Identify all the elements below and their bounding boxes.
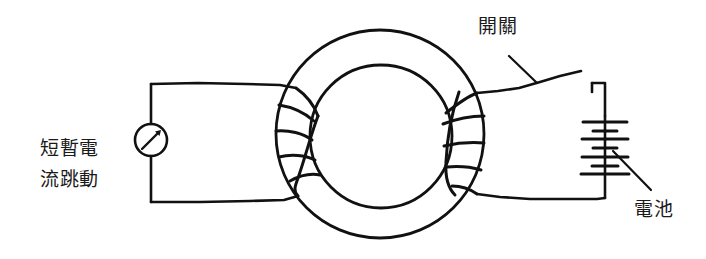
core-inner-circle: [310, 65, 452, 208]
secondary-coil-windings: [276, 88, 320, 196]
battery-leader-line: [613, 151, 651, 190]
battery-label: 電池: [634, 198, 673, 220]
secondary-circuit: [135, 83, 298, 202]
secondary-bottom-wire: [151, 196, 298, 202]
coil-turn-left-5: [290, 174, 320, 181]
primary-bottom-wire: [477, 194, 605, 199]
secondary-top-wire: [151, 83, 296, 88]
diagram-canvas: 短暫電 流跳動 開關 電池: [0, 0, 706, 259]
primary-circuit: [477, 71, 629, 199]
coil-turn-right-3: [444, 143, 484, 146]
switch-contact-wire: [592, 83, 605, 116]
coil-turn-right-4: [447, 167, 481, 170]
iron-ring-core: [276, 30, 484, 238]
coil-turn-right-1: [446, 93, 477, 113]
left-annotation-line2: 流跳動: [40, 168, 99, 190]
switch-leader-line: [509, 56, 537, 83]
coil-turn-left-3: [276, 131, 312, 140]
induction-ring-figure: 短暫電 流跳動 開關 電池: [0, 0, 706, 259]
coil-turn-left-2: [279, 105, 314, 121]
galvanometer-needle: [142, 132, 159, 149]
coil-turn-left-4: [279, 155, 315, 160]
galvanometer: [135, 124, 167, 156]
left-annotation-line1: 短暫電: [40, 137, 99, 159]
switch-label: 開關: [478, 15, 517, 37]
primary-coil-windings: [443, 92, 484, 195]
battery-stack: [581, 122, 629, 174]
